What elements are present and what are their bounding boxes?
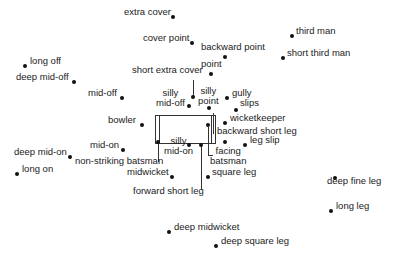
connector-line-forward-short-leg <box>201 145 202 190</box>
midwicket-label: midwicket <box>127 167 169 177</box>
deep-fine-leg-label: deep fine leg <box>327 176 381 186</box>
long-leg-label: long leg <box>336 201 369 211</box>
cover-point-marker <box>190 41 194 45</box>
facing-batsman-marker <box>206 123 210 127</box>
connector-line-backward-short-leg <box>213 113 214 134</box>
mid-off-marker <box>120 96 124 100</box>
fielding-positions-diagram: extra covercover pointbackward pointpoin… <box>0 0 394 257</box>
silly-mid-off-marker <box>187 104 191 108</box>
midwicket-marker <box>170 175 174 179</box>
deep-square-leg-marker <box>214 244 218 248</box>
point-marker <box>209 72 213 76</box>
long-on-marker <box>15 172 19 176</box>
long-on-label: long on <box>22 164 53 174</box>
silly-mid-on-label: sillymid-on <box>164 136 193 156</box>
mid-off-label: mid-off <box>88 88 117 98</box>
third-man-label: third man <box>296 26 336 36</box>
silly-point-marker <box>207 106 211 110</box>
short-extra-cover-marker <box>191 95 195 99</box>
short-third-man-marker <box>281 56 285 60</box>
leg-slip-label: leg slip <box>250 135 280 145</box>
mid-on-marker <box>121 148 125 152</box>
backward-point-marker <box>223 55 227 59</box>
extra-cover-label: extra cover <box>124 7 171 17</box>
deep-mid-on-marker <box>68 155 72 159</box>
wicketkeeper-label: wicketkeeper <box>230 113 285 123</box>
non-striking-batsman-label: non-striking batsman <box>75 156 163 166</box>
slips-label: slips <box>240 98 259 108</box>
facing-batsman-label: facingbatsman <box>210 146 246 166</box>
backward-point-label: backward point <box>201 42 265 52</box>
silly-point-label: sillypoint <box>198 86 219 106</box>
deep-midwicket-marker <box>167 230 171 234</box>
third-man-marker <box>290 34 294 38</box>
long-off-label: long off <box>30 56 61 66</box>
gully-marker <box>225 96 229 100</box>
deep-square-leg-label: deep square leg <box>221 236 289 246</box>
forward-short-leg-marker <box>199 143 203 147</box>
connector-line-facing-batsman <box>208 127 209 155</box>
long-leg-marker <box>329 209 333 213</box>
deep-mid-off-label: deep mid-off <box>16 72 69 82</box>
deep-midwicket-label: deep midwicket <box>174 222 239 232</box>
long-off-marker <box>23 64 27 68</box>
backward-short-leg-marker <box>223 140 227 144</box>
batting-crease-line <box>211 115 212 144</box>
bowler-label: bowler <box>108 115 136 125</box>
mid-on-label: mid-on <box>90 140 119 150</box>
square-leg-marker <box>206 175 210 179</box>
deep-mid-on-label: deep mid-on <box>14 147 67 157</box>
cover-point-label: cover point <box>143 33 189 43</box>
forward-short-leg-label: forward short leg <box>133 186 204 196</box>
short-third-man-label: short third man <box>287 48 350 58</box>
square-leg-label: square leg <box>212 167 256 177</box>
extra-cover-marker <box>171 15 175 19</box>
silly-mid-off-label: sillymid-off <box>156 88 185 108</box>
non-striking-batsman-marker <box>156 140 160 144</box>
deep-mid-off-marker <box>72 80 76 84</box>
bowler-marker <box>140 123 144 127</box>
point-label: point <box>201 59 222 69</box>
short-extra-cover-label: short extra cover <box>132 65 203 75</box>
